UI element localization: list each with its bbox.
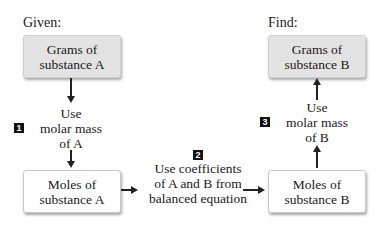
- box-text-line: Grams of: [292, 42, 343, 57]
- step-text: balanced equation: [136, 191, 260, 206]
- box-text-line: substance A: [40, 192, 105, 207]
- arrow-head-icon: [313, 145, 321, 152]
- step-2-label: 2 Use coefficients of A and B from balan…: [136, 146, 260, 206]
- box-text-line: substance B: [285, 192, 350, 207]
- step-text: of A: [0, 136, 142, 151]
- moles-substance-a-box: Moles ofsubstance A: [23, 170, 121, 213]
- moles-substance-b-box: Moles ofsubstance B: [268, 170, 366, 213]
- arrow-right-icon: [243, 189, 259, 191]
- arrow-head-icon: [67, 161, 75, 168]
- given-label: Given:: [23, 15, 61, 31]
- step-text: Use coefficients: [136, 161, 260, 176]
- find-label: Find:: [268, 15, 298, 31]
- box-text-line: Moles of: [48, 177, 96, 192]
- step-3-label: Use 3molar mass of B: [246, 100, 386, 145]
- step-text: of A and B from: [136, 176, 260, 191]
- arrow-up-icon: [316, 151, 318, 168]
- step-text: molar mass: [286, 115, 348, 130]
- step-text: Use: [246, 100, 386, 115]
- step-1-number-badge: 1: [14, 123, 24, 133]
- box-text-line: Moles of: [293, 177, 341, 192]
- step-1-label: Use 1molar mass of A: [0, 106, 142, 151]
- step-text: Use: [0, 106, 142, 121]
- step-2-number-badge: 2: [193, 150, 203, 160]
- step-3-number-badge: 3: [260, 117, 270, 127]
- box-text-line: Grams of: [47, 42, 98, 57]
- box-text-line: substance B: [285, 57, 350, 72]
- step-text: molar mass: [40, 121, 102, 136]
- arrow-head-icon: [258, 186, 265, 194]
- step-text: of B: [246, 130, 386, 145]
- arrow-head-icon: [313, 78, 321, 85]
- box-text-line: substance A: [40, 57, 105, 72]
- arrow-down-icon: [70, 78, 72, 98]
- grams-substance-b-box: Grams ofsubstance B: [268, 35, 366, 78]
- arrow-head-icon: [67, 96, 75, 103]
- arrow-up-icon: [316, 84, 318, 100]
- grams-substance-a-box: Grams ofsubstance A: [23, 35, 121, 78]
